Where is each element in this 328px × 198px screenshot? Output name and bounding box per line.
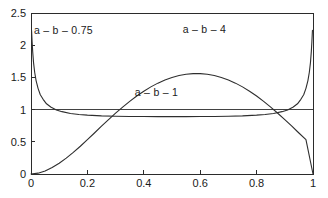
- chart-figure: 00.511.522.5 00.20.40.60.81 a – b – 0.75…: [0, 0, 328, 198]
- x-tick-label: 0: [28, 177, 34, 189]
- y-tick-label: 0: [20, 168, 26, 180]
- beta-pdf-chart: 00.511.522.5 00.20.40.60.81 a – b – 0.75…: [0, 0, 328, 198]
- x-tick-label: 0.4: [136, 177, 151, 189]
- x-tick-label: 1: [310, 177, 316, 189]
- x-tick-label: 0.8: [249, 177, 264, 189]
- x-tick-label: 0.2: [80, 177, 95, 189]
- annotation-a-b-0-75: a – b – 0.75: [34, 24, 93, 36]
- y-tick-label: 2: [20, 39, 26, 51]
- y-tick-label: 1.5: [11, 71, 26, 83]
- annotation-a-b-4: a – b – 4: [183, 23, 227, 35]
- y-tick-label: 2.5: [11, 7, 26, 19]
- annotation-a-b-1: a – b – 1: [135, 86, 179, 98]
- y-tick-label: 1: [20, 104, 26, 116]
- y-tick-label: 0.5: [11, 136, 26, 148]
- x-tick-label: 0.6: [193, 177, 208, 189]
